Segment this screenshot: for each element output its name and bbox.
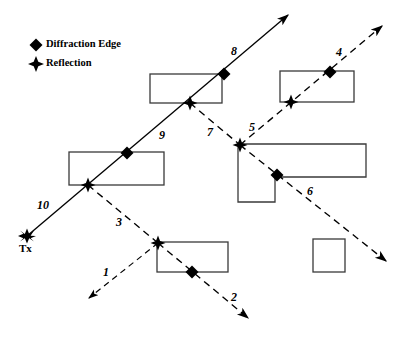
ray-label-5: 5 (249, 121, 255, 133)
legend-markers (28, 39, 44, 73)
ray-label-4: 4 (336, 46, 342, 58)
ray-1-segment (89, 243, 158, 298)
legend-label-reflection: Reflection (46, 58, 91, 69)
legend-diamond-marker (30, 39, 43, 52)
legend-label-diffraction-edge: Diffraction Edge (46, 39, 121, 50)
buildings-layer (69, 71, 366, 272)
propagation-ray-diagram (0, 0, 409, 342)
ray-label-6: 6 (307, 185, 313, 197)
building-mid-left (69, 152, 164, 185)
building-l-shaped (238, 144, 366, 202)
ray-3-segment (88, 185, 158, 243)
building-upper-left (150, 74, 222, 103)
tx-label: Tx (19, 243, 32, 254)
building-lower-right (313, 239, 345, 272)
ray-label-3: 3 (116, 216, 122, 228)
ray-label-7: 7 (207, 126, 213, 138)
ray-label-10: 10 (37, 199, 49, 211)
legend-star-marker (28, 56, 44, 72)
ray-label-1: 1 (103, 266, 109, 278)
ray-7-segment (190, 103, 240, 145)
ray-label-2: 2 (231, 291, 237, 303)
ray-label-9: 9 (159, 129, 165, 141)
ray-label-8: 8 (231, 45, 237, 57)
